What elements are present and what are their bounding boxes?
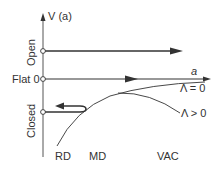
- open-start-marker: [41, 49, 46, 54]
- arrow-left-icon: [55, 103, 64, 110]
- label-md: MD: [89, 150, 106, 162]
- y-axis-label: V (a): [48, 10, 72, 22]
- label-closed: Closed: [25, 104, 37, 138]
- potential-diagram: V (a) Open Flat 0 a Closed Λ = 0 Λ > 0 R…: [0, 0, 218, 171]
- closed-trajectory: [41, 103, 86, 115]
- open-trajectory: [41, 48, 183, 55]
- label-flat: Flat 0: [12, 73, 40, 85]
- x-axis-arrow-icon: [203, 77, 211, 82]
- label-open: Open: [25, 39, 37, 66]
- label-rd: RD: [55, 150, 71, 162]
- x-axis-label: a: [191, 65, 197, 77]
- y-axis-arrow-icon: [41, 13, 46, 21]
- arrow-right-icon: [170, 48, 183, 55]
- label-lambda-zero: Λ = 0: [180, 82, 205, 94]
- curve-lambda-positive: [118, 93, 180, 113]
- label-vac: VAC: [157, 150, 179, 162]
- label-lambda-positive: Λ > 0: [181, 107, 206, 119]
- closed-start-marker: [41, 110, 46, 115]
- arrow-right-icon: [125, 76, 138, 83]
- flat-start-marker: [41, 77, 46, 82]
- y-axis: [41, 13, 46, 157]
